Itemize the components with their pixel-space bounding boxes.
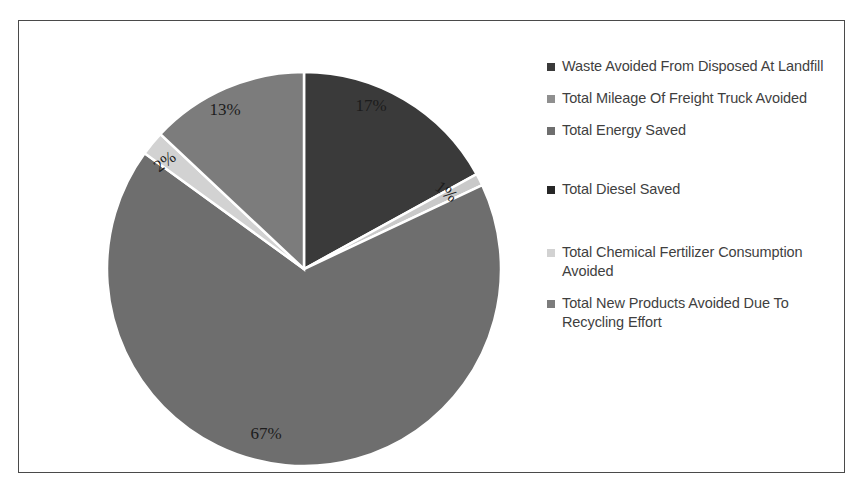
legend-item[interactable]: Total Mileage Of Freight Truck Avoided bbox=[547, 89, 842, 108]
legend-swatch-icon bbox=[547, 63, 555, 71]
legend-item[interactable]: Total Chemical Fertilizer Consumption Av… bbox=[547, 243, 842, 281]
chart-legend: Waste Avoided From Disposed At LandfillT… bbox=[547, 57, 842, 457]
legend-item[interactable]: Total Diesel Saved bbox=[547, 180, 842, 199]
legend-item[interactable]: Waste Avoided From Disposed At Landfill bbox=[547, 57, 842, 76]
legend-item-label: Total Energy Saved bbox=[562, 121, 686, 140]
pie-slice-value-label: 67% bbox=[250, 424, 281, 443]
legend-item-label: Total Diesel Saved bbox=[562, 180, 680, 199]
legend-item[interactable]: Total Energy Saved bbox=[547, 121, 842, 140]
pie-slices-group bbox=[107, 72, 501, 466]
legend-item[interactable]: Total New Products Avoided Due To Recycl… bbox=[547, 294, 842, 332]
pie-slice-value-label: 13% bbox=[209, 100, 240, 119]
legend-item-label: Total Chemical Fertilizer Consumption Av… bbox=[562, 243, 824, 281]
chart-frame: 17%1%67%2%13% Waste Avoided From Dispose… bbox=[18, 20, 845, 473]
legend-swatch-icon bbox=[547, 300, 555, 308]
legend-swatch-icon bbox=[547, 127, 555, 135]
legend-item-label: Total Mileage Of Freight Truck Avoided bbox=[562, 89, 807, 108]
legend-item-label: Waste Avoided From Disposed At Landfill bbox=[562, 57, 823, 76]
legend-item-label: Total New Products Avoided Due To Recycl… bbox=[562, 294, 824, 332]
pie-slice-value-label: 17% bbox=[355, 96, 386, 115]
legend-swatch-icon bbox=[547, 186, 555, 194]
pie-chart-area: 17%1%67%2%13% bbox=[19, 21, 539, 472]
legend-swatch-icon bbox=[547, 95, 555, 103]
pie-chart-svg: 17%1%67%2%13% bbox=[19, 21, 539, 472]
legend-swatch-icon bbox=[547, 249, 555, 257]
